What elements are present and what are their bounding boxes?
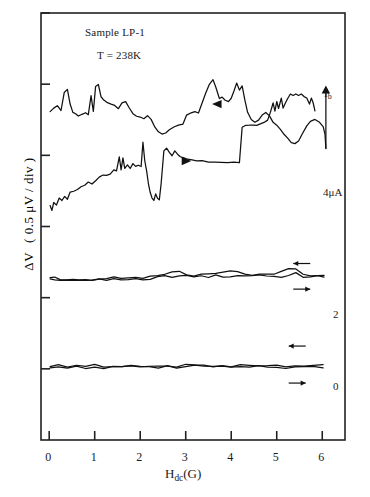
curve-label-2: 2 <box>333 309 339 320</box>
x-axis-label: Hdc(G) <box>165 467 201 483</box>
bias-current-symbol: Ib <box>324 88 332 101</box>
x-axis-label-tail: (G) <box>183 466 201 481</box>
x-tick-label-2: 2 <box>136 451 142 463</box>
x-tick-label-4: 4 <box>227 451 233 463</box>
x-tick-label-0: 0 <box>45 451 51 463</box>
plot-canvas <box>0 0 370 497</box>
bias-current-symbol-sub: b <box>328 92 332 101</box>
x-axis-label-main: H <box>165 466 174 481</box>
x-tick-label-1: 1 <box>91 451 97 463</box>
sample-label: Sample LP-1 <box>85 27 145 38</box>
plot-frame <box>41 13 345 440</box>
temperature-label: T = 238K <box>97 50 141 61</box>
curve-label-0: 0 <box>333 381 339 392</box>
x-tick-label-5: 5 <box>273 451 279 463</box>
y-axis-label: ΔV ( 0.5 μV / div ) <box>19 114 37 314</box>
curve-label-4ua: 4μA <box>323 187 342 198</box>
y-axis-label-units: ( 0.5 μV / div ) <box>21 157 37 248</box>
x-tick-label-3: 3 <box>182 451 188 463</box>
figure-container: Sample LP-1 T = 238K Ib 4μA 2 0 0123456 … <box>0 0 370 497</box>
x-axis-label-sub: dc <box>174 473 183 483</box>
x-tick-label-6: 6 <box>318 451 324 463</box>
y-axis-label-delta: ΔV <box>21 252 37 271</box>
